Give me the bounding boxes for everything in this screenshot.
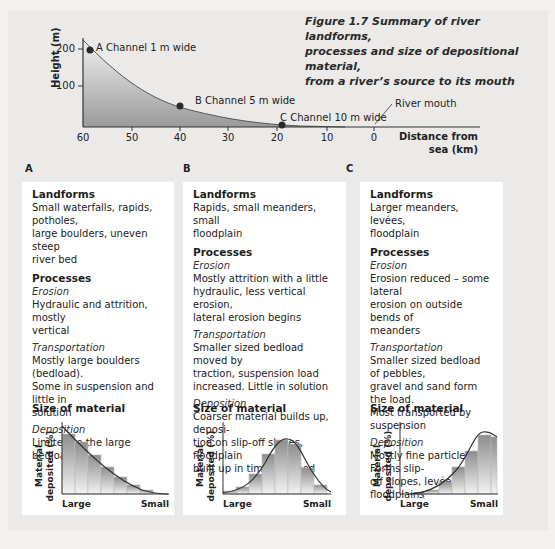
x-axis-label-line1: Distance from bbox=[399, 131, 478, 142]
column-letter-c: C bbox=[346, 163, 353, 174]
x-tick-50: 50 bbox=[126, 132, 139, 143]
processes-heading: Processes bbox=[32, 272, 164, 285]
y-label: deposited (%) bbox=[206, 431, 216, 502]
panel-b: Landforms Rapids, small meanders, small … bbox=[183, 182, 346, 515]
erosion-text: meanders bbox=[370, 324, 493, 337]
erosion-text: erosion on outside bends of bbox=[370, 298, 493, 324]
erosion-text: hydraulic, less vertical erosion, bbox=[193, 285, 336, 311]
size-of-material-chart-b: Size of material Material deposited (%) … bbox=[193, 402, 333, 512]
y-label: Material bbox=[372, 445, 382, 487]
histogram-a: Material deposited (%) Large Small bbox=[32, 418, 172, 510]
x-tick-30: 30 bbox=[222, 132, 235, 143]
y-axis-label: Height (m) bbox=[50, 27, 61, 88]
transportation-heading: Transportation bbox=[32, 341, 164, 354]
landforms-heading: Landforms bbox=[193, 188, 336, 201]
river-mouth-label: River mouth bbox=[395, 98, 457, 109]
landforms-heading: Landforms bbox=[32, 188, 164, 201]
large-label: Large bbox=[62, 499, 91, 509]
column-letter-b: B bbox=[183, 163, 191, 174]
large-label: Large bbox=[400, 499, 429, 509]
size-title: Size of material bbox=[32, 402, 172, 414]
erosion-text: vertical bbox=[32, 324, 164, 337]
landforms-text: floodplain bbox=[370, 227, 493, 240]
landforms-text: large boulders, uneven steep bbox=[32, 227, 164, 253]
x-tick-40: 40 bbox=[174, 132, 187, 143]
river-long-profile-chart: 200 100 60 50 40 30 20 10 0 Height (m) D… bbox=[0, 0, 555, 160]
transportation-heading: Transportation bbox=[193, 328, 336, 341]
point-c-label: C Channel 10 m wide bbox=[280, 112, 387, 123]
x-tick-60: 60 bbox=[77, 132, 90, 143]
transportation-text: increased. Little in solution bbox=[193, 380, 336, 393]
transportation-text: Mostly large boulders (bedload). bbox=[32, 354, 164, 380]
histogram-c: Material deposited (%) Large Small bbox=[370, 418, 500, 510]
x-tick-0: 0 bbox=[371, 132, 377, 143]
point-b-marker bbox=[177, 103, 184, 110]
erosion-heading: Erosion bbox=[370, 259, 493, 272]
erosion-text: Erosion reduced – some lateral bbox=[370, 272, 493, 298]
size-of-material-chart-c: Size of material Material deposited (%) … bbox=[370, 402, 510, 512]
point-b-label: B Channel 5 m wide bbox=[195, 95, 295, 106]
panel-a: Landforms Small waterfalls, rapids, poth… bbox=[22, 182, 174, 515]
erosion-text: Hydraulic and attrition, mostly bbox=[32, 298, 164, 324]
large-label: Large bbox=[223, 499, 252, 509]
landforms-text: Rapids, small meanders, small bbox=[193, 201, 336, 227]
size-title: Size of material bbox=[370, 402, 510, 414]
erosion-text: lateral erosion begins bbox=[193, 311, 336, 324]
landforms-text: Larger meanders, levées, bbox=[370, 201, 493, 227]
size-title: Size of material bbox=[193, 402, 333, 414]
erosion-heading: Erosion bbox=[193, 259, 336, 272]
small-label: Small bbox=[470, 499, 498, 509]
small-label: Small bbox=[141, 499, 169, 509]
erosion-text: Mostly attrition with a little bbox=[193, 272, 336, 285]
y-label: deposited (%) bbox=[45, 431, 55, 502]
x-axis-label-line2: sea (km) bbox=[429, 144, 478, 155]
y-label: Material bbox=[34, 445, 44, 487]
transportation-heading: Transportation bbox=[370, 341, 493, 354]
landforms-heading: Landforms bbox=[370, 188, 493, 201]
column-letter-a: A bbox=[25, 163, 33, 174]
x-tick-20: 20 bbox=[271, 132, 284, 143]
landforms-text: Small waterfalls, rapids, potholes, bbox=[32, 201, 164, 227]
panel-c: Landforms Larger meanders, levées, flood… bbox=[360, 182, 503, 515]
processes-heading: Processes bbox=[193, 246, 336, 259]
y-label: deposited (%) bbox=[383, 431, 393, 502]
x-tick-10: 10 bbox=[321, 132, 334, 143]
point-a-marker bbox=[87, 47, 94, 54]
landforms-text: floodplain bbox=[193, 227, 336, 240]
processes-heading: Processes bbox=[370, 246, 493, 259]
y-label: Material bbox=[195, 445, 205, 487]
small-label: Small bbox=[303, 499, 331, 509]
transportation-text: Smaller sized bedload of pebbles, bbox=[370, 354, 493, 380]
erosion-heading: Erosion bbox=[32, 285, 164, 298]
histogram-b: Material deposited (%) Large Small bbox=[193, 418, 333, 510]
transportation-text: traction, suspension load bbox=[193, 367, 336, 380]
transportation-text: Smaller sized bedload moved by bbox=[193, 341, 336, 367]
landforms-text: river bed bbox=[32, 253, 164, 266]
point-a-label: A Channel 1 m wide bbox=[96, 42, 196, 53]
size-of-material-chart-a: Size of material Material deposited (%) … bbox=[32, 402, 172, 512]
